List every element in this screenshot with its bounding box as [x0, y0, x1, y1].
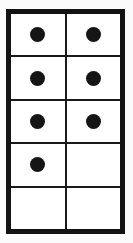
figure-canvas — [0, 0, 133, 243]
grid-cell-r4c2 — [67, 144, 121, 185]
dot-icon — [86, 27, 101, 42]
grid-cell-r2c2 — [67, 57, 121, 98]
grid-cell-r3c1 — [11, 101, 67, 142]
dot-icon — [86, 114, 101, 129]
dot-icon — [30, 114, 45, 129]
grid-cell-r2c1 — [11, 57, 67, 98]
grid-row — [11, 188, 120, 229]
dot-icon — [86, 71, 101, 86]
grid-cell-r5c2 — [67, 188, 121, 229]
grid-row — [11, 144, 120, 187]
dot-icon — [30, 71, 45, 86]
grid-row — [11, 101, 120, 144]
dot-icon — [30, 157, 45, 172]
grid-cell-r3c2 — [67, 101, 121, 142]
grid-cell-r1c2 — [67, 14, 121, 55]
grid-row — [11, 57, 120, 100]
dot-icon — [30, 27, 45, 42]
grid-cell-r5c1 — [11, 188, 67, 229]
grid-row — [11, 14, 120, 57]
dot-grid-frame — [6, 9, 125, 234]
grid-cell-r4c1 — [11, 144, 67, 185]
grid-cell-r1c1 — [11, 14, 67, 55]
